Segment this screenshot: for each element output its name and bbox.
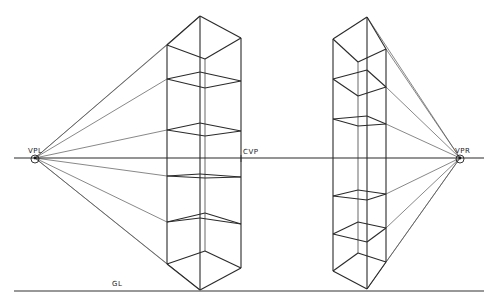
horizon-line	[14, 155, 484, 162]
vpl-label: VPL	[28, 148, 42, 155]
gl-label: GL	[112, 281, 122, 288]
left-tower	[167, 16, 241, 290]
cvp-label: CVP	[243, 149, 258, 156]
right-tower	[333, 17, 386, 289]
perspective-diagram: VPL VPR CVP GL	[0, 0, 494, 304]
vpr-label: VPR	[455, 148, 470, 155]
vanishing-point-marks	[31, 155, 464, 163]
